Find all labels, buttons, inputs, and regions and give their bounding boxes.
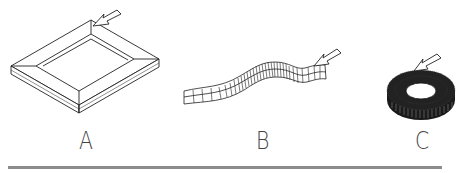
label-b: B [256,129,269,153]
figure-a-arrow-icon [93,10,121,26]
horizontal-rule [8,166,442,169]
figure-c-ring [387,70,455,120]
figure-b-strip [184,62,326,104]
label-a: A [79,129,93,153]
figure-b-arrow-icon [314,49,341,66]
label-c: C [415,129,429,153]
figure-a-frame [11,20,159,113]
figure-c-arrow-icon [414,54,441,71]
diagram-canvas [0,0,466,173]
